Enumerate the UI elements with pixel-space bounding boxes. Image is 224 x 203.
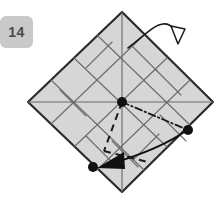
- unfold-arrow-head: [171, 26, 185, 44]
- step-number-badge: 14: [0, 16, 33, 48]
- origami-step-diagram: 14: [0, 0, 224, 203]
- reference-point-bottom-left: [88, 162, 98, 172]
- origami-figure-canvas: [0, 0, 224, 203]
- step-number-label: 14: [8, 25, 25, 39]
- reference-point-right-edge: [183, 125, 193, 135]
- reference-point-center: [117, 97, 127, 107]
